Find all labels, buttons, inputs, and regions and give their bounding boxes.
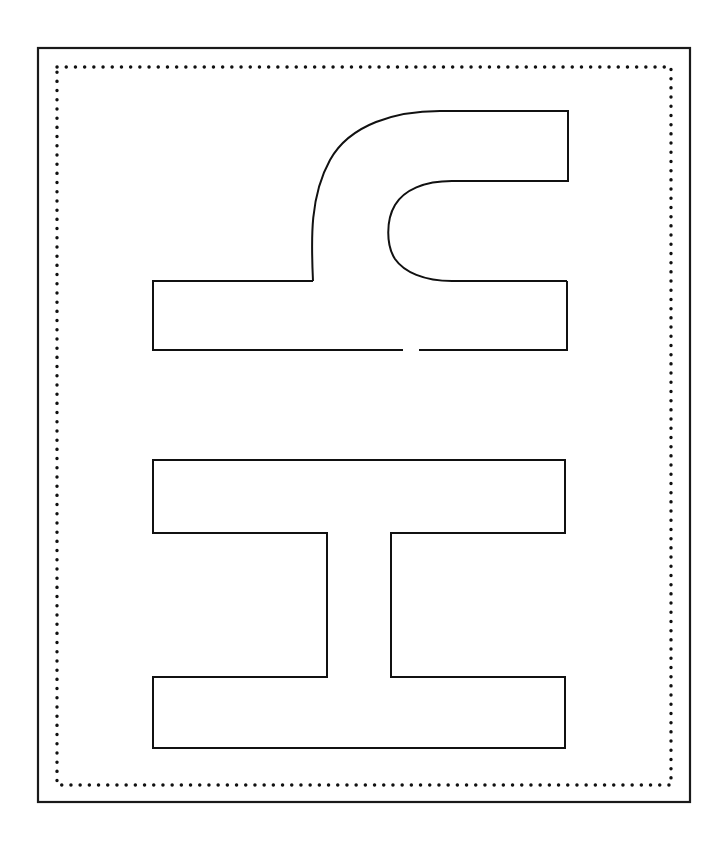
figure-svg (0, 0, 725, 841)
drawing-canvas (0, 0, 725, 841)
